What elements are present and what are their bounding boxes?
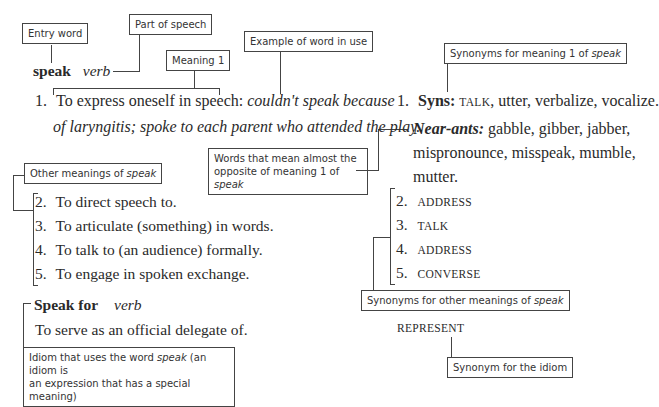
near-ants-list: mispronounce, misspeak, mumble, (413, 144, 636, 161)
connector-line (194, 71, 195, 89)
meaning-example: couldn't speak because (247, 92, 394, 109)
near-ants-list: gabble, gibber, jabber, (484, 120, 630, 137)
meaning-number: 2. (35, 193, 47, 210)
label-text: Part of speech (135, 19, 206, 30)
connector-line (13, 210, 33, 211)
meaning-text: To direct speech to. (56, 193, 177, 210)
label-text: Synonym for the idiom (453, 362, 567, 373)
meaning-text: To talk to (an audience) formally. (56, 241, 263, 258)
label-synonyms-meaning-1: Synonyms for meaning 1 of speak (444, 43, 627, 64)
label-text: Words that mean almost the (214, 153, 357, 164)
connector-line (356, 170, 379, 171)
label-near-ants: Words that mean almost the opposite of m… (208, 148, 368, 195)
meaning-number: 2. (396, 192, 408, 209)
entry-pos: verb (83, 62, 111, 79)
label-part-of-speech: Part of speech (129, 14, 212, 35)
idiom-pos: verb (114, 296, 142, 313)
label-word: speak (127, 168, 157, 179)
label-text: Meaning 1 (172, 55, 224, 66)
connector-line (23, 303, 24, 347)
connector-line (451, 337, 452, 358)
connector-line (390, 188, 395, 189)
label-meaning-1: Meaning 1 (166, 50, 230, 71)
thesaurus-meaning-4: 4. ADDRESS (396, 240, 472, 258)
meaning-1-continued: of laryngitis; spoke to each parent who … (53, 118, 420, 136)
label-word: speak (591, 48, 621, 59)
label-text: Idiom that uses the word (29, 352, 157, 363)
meaning-number: 1. (35, 92, 47, 109)
syns-label: Syns: (418, 92, 455, 109)
idiom-synonym: REPRESENT (397, 322, 464, 334)
idiom-heading: Speak for verb (34, 296, 142, 314)
label-text: opposite of meaning 1 of (214, 166, 339, 177)
near-ants-continued: mispronounce, misspeak, mumble, (413, 144, 636, 162)
synonym: ADDRESS (418, 196, 473, 208)
connector-line (373, 237, 374, 291)
synonym: CONVERSE (418, 268, 481, 280)
near-ants-continued: mutter. (413, 168, 458, 186)
connector-line (280, 52, 281, 94)
other-meaning-3: 3. To articulate (something) in words. (35, 217, 274, 235)
synonym: ADDRESS (418, 244, 473, 256)
connector-line (113, 71, 140, 72)
label-text: Example of word in use (250, 36, 367, 47)
entry-headword: speak verb (33, 62, 110, 80)
connector-line (373, 237, 391, 238)
meaning-number: 4. (396, 240, 408, 257)
thesaurus-meaning-5: 5. CONVERSE (396, 264, 481, 282)
other-meaning-4: 4. To talk to (an audience) formally. (35, 241, 263, 259)
label-word: speak (534, 295, 564, 306)
meaning-number: 5. (35, 265, 47, 282)
meaning-number: 3. (396, 216, 408, 233)
thesaurus-meaning-3: 3. TALK (396, 216, 448, 234)
label-example: Example of word in use (244, 31, 373, 52)
label-synonyms-other: Synonyms for other meanings of speak (361, 290, 570, 311)
label-other-meanings: Other meanings of speak (24, 163, 162, 184)
near-ants-list: mutter. (413, 168, 458, 185)
label-idiom: Idiom that uses the word speak (an idiom… (23, 347, 235, 407)
idiom-phrase: Speak for (34, 296, 98, 313)
connector-line (447, 64, 448, 92)
connector-line (33, 193, 34, 286)
thesaurus-meaning-2: 2. ADDRESS (396, 192, 472, 210)
meaning-example: of laryngitis; spoke to each parent who … (53, 118, 420, 135)
meaning-number: 1. (397, 92, 409, 109)
meaning-text: To articulate (something) in words. (56, 217, 274, 234)
meaning-text: To engage in spoken exchange. (56, 265, 250, 282)
label-entry-word: Entry word (22, 23, 88, 44)
near-ants: Near-ants: gabble, gibber, jabber, (413, 120, 630, 138)
label-word: speak (214, 179, 244, 190)
connector-line (13, 175, 24, 176)
meaning-number: 4. (35, 241, 47, 258)
meaning-number: 3. (35, 217, 47, 234)
near-ants-label: Near-ants: (413, 120, 484, 137)
thesaurus-meaning-1: 1. Syns: TALK, utter, verbalize, vocaliz… (397, 92, 659, 110)
idiom-definition: To serve as an official delegate of. (35, 321, 248, 339)
other-meaning-5: 5. To engage in spoken exchange. (35, 265, 249, 283)
meaning-1: 1. To express oneself in speech: couldn'… (35, 92, 395, 110)
label-text: Synonyms for other meanings of (367, 295, 534, 306)
connector-line (33, 285, 38, 286)
connector-line (139, 35, 140, 72)
label-text: Other meanings of (30, 168, 127, 179)
connector-line (13, 175, 14, 211)
connector-line (53, 88, 220, 89)
other-meaning-2: 2. To direct speech to. (35, 193, 177, 211)
label-text: an expression that has a special meaning… (29, 378, 190, 402)
syns-list: , utter, verbalize, vocalize. (490, 92, 659, 109)
label-synonym-idiom: Synonym for the idiom (447, 357, 573, 378)
connector-line (23, 303, 31, 304)
meaning-definition: To express oneself in speech: (56, 92, 247, 109)
entry-word: speak (33, 62, 71, 79)
connector-line (390, 284, 395, 285)
label-text: Entry word (28, 28, 82, 39)
label-word: speak (157, 352, 187, 363)
synonym: TALK (418, 220, 449, 232)
idiom-definition-text: To serve as an official delegate of. (35, 321, 248, 338)
meaning-number: 5. (396, 264, 408, 281)
label-text: Synonyms for meaning 1 of (450, 48, 591, 59)
connector-line (51, 45, 52, 63)
syns-primary: TALK (459, 96, 490, 108)
idiom-synonym-text: REPRESENT (397, 322, 464, 334)
